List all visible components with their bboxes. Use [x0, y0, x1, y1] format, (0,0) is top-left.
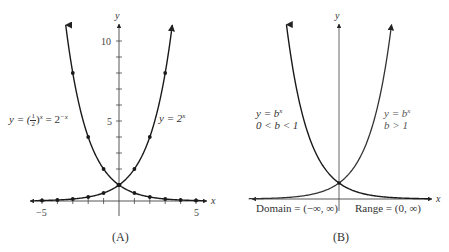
data-point — [179, 198, 183, 202]
panel-b-y-axis-label: y — [335, 11, 339, 21]
data-point — [148, 135, 152, 139]
x-tick-5: 5 — [194, 208, 199, 218]
panel-a-x-axis-label: x — [211, 196, 215, 206]
label-2-pow-x: y = 2x — [159, 113, 185, 124]
data-point — [117, 183, 121, 187]
data-point — [163, 197, 167, 201]
data-point — [86, 135, 90, 139]
data-point — [102, 167, 106, 171]
data-point — [133, 191, 137, 195]
data-point — [148, 195, 152, 199]
intersection-point — [337, 181, 341, 185]
data-point — [71, 197, 75, 201]
panel-b-x-axis-label: x — [436, 194, 440, 204]
x-tick-neg5: −5 — [36, 208, 47, 218]
y-tick-10: 10 — [101, 37, 111, 47]
caption-a: (A) — [112, 231, 129, 243]
data-point — [133, 167, 137, 171]
range-annotation: Range = (0, ∞) — [355, 203, 421, 214]
data-point — [71, 71, 75, 75]
caption-b: (B) — [333, 231, 349, 243]
data-point — [86, 195, 90, 199]
data-point — [56, 198, 60, 202]
label-half-pow-x: y = (12)x = 2−x — [9, 113, 68, 128]
domain-annotation: Domain = (−∞, ∞) — [256, 203, 338, 214]
data-point — [102, 191, 106, 195]
data-point — [194, 199, 198, 203]
data-point — [163, 71, 167, 75]
label-b-lt-1: y = bx 0 < b < 1 — [256, 108, 298, 131]
y-tick-5: 5 — [107, 117, 112, 127]
label-b-gt-1: y = bx b > 1 — [384, 108, 410, 131]
panel-a-y-axis-label: y — [115, 11, 119, 21]
data-point — [40, 199, 44, 203]
